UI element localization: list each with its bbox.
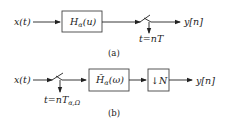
block-diagram: x(t) Hα(u) y[n] t=nT (a) x(t) t=nTα,Ω H̃… <box>0 0 226 126</box>
downsampler-label-b: ↓N <box>151 75 168 86</box>
input-label-a: x(t) <box>14 16 31 27</box>
caption-b: (b) <box>108 108 120 118</box>
input-label-b: x(t) <box>14 74 31 85</box>
sampler-label-b: t=nTα,Ω <box>44 94 81 107</box>
caption-a: (a) <box>108 48 120 58</box>
sampler-label-a: t=nT <box>139 33 164 44</box>
sampler-switch-arm-b <box>56 76 62 80</box>
output-label-b: y[n] <box>195 75 215 86</box>
output-label-a: y[n] <box>183 16 203 27</box>
sampler-switch-arm-a <box>144 18 151 22</box>
diagram-a: x(t) Hα(u) y[n] t=nT (a) <box>14 11 203 58</box>
diagram-b: x(t) t=nTα,Ω H̃α(ω) ↓N y[n] (b) <box>14 69 215 118</box>
